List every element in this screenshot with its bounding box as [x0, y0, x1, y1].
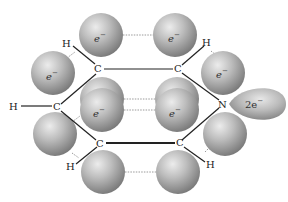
atom-h2: H: [202, 37, 211, 48]
orbital-spheres-back: [31, 13, 286, 156]
atom-h5: H: [206, 159, 215, 170]
atom-c4: C: [96, 138, 104, 149]
atom-c2: C: [174, 63, 182, 74]
atom-h4: H: [66, 161, 75, 172]
atom-c5: C: [176, 137, 184, 148]
p-orbital-sphere-lower-right: [203, 112, 247, 156]
dotted-line-h4: [72, 153, 79, 158]
atom-n: N: [218, 99, 227, 110]
atom-c3: C: [53, 101, 61, 112]
atom-h3: H: [9, 101, 18, 112]
atom-c1: C: [94, 63, 102, 74]
atom-h1: H: [62, 38, 71, 49]
p-orbital-sphere-bottom-right: [156, 150, 200, 194]
p-orbital-sphere-bottom-left: [81, 150, 125, 194]
pyridine-orbital-diagram: H H C C H C N C C H H e− e− e− e− e− e− …: [0, 0, 288, 202]
